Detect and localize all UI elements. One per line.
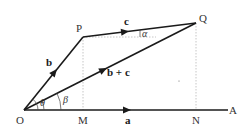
vector-label-c: c: [124, 15, 129, 27]
point-label-q: Q: [199, 12, 207, 24]
angle-label-theta: θ: [40, 97, 45, 108]
vector-diagram: P Q O M N A b c b + c a θ β α: [0, 0, 250, 132]
vector-c-line: [83, 23, 196, 37]
angle-label-alpha: α: [142, 28, 148, 39]
angle-beta-arc: [57, 93, 61, 110]
vector-c-arrowhead: [121, 28, 130, 36]
vector-label-b: b: [46, 56, 52, 68]
angle-label-beta: β: [62, 94, 68, 105]
point-label-p: P: [76, 22, 82, 34]
point-label-a: A: [229, 104, 237, 116]
point-label-o: O: [16, 114, 24, 126]
vector-label-b-plus-c: b + c: [107, 66, 130, 78]
vector-a-arrowhead: [123, 107, 131, 114]
point-label-n: N: [192, 114, 200, 126]
point-label-m: M: [78, 114, 88, 126]
vector-label-a: a: [125, 114, 131, 126]
stray-dot: [178, 80, 179, 81]
